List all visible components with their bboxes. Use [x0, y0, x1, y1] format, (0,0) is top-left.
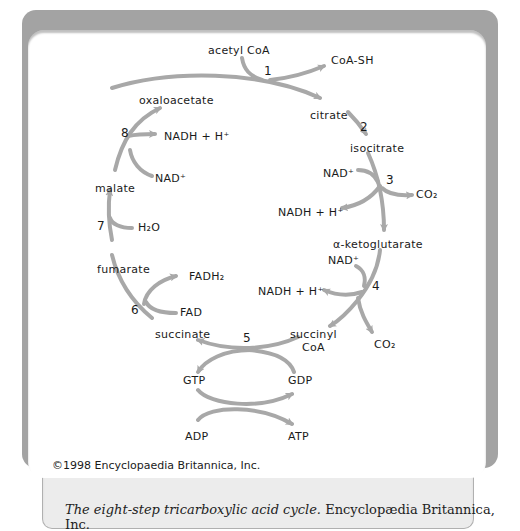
- label-step3-nadh: NADH + H⁺: [278, 206, 343, 219]
- arrow-step4-co2: [358, 298, 372, 332]
- label-citrate: citrate: [310, 109, 348, 122]
- tca-cycle-diagram: acetyl CoA CoA-SH citrate isocitrate α-k…: [0, 0, 520, 531]
- label-succinyl-coa: CoA: [302, 341, 325, 354]
- arrow-step8-nad: [130, 150, 152, 176]
- arrow-step7-main: [109, 190, 112, 240]
- step-number-1: 1: [264, 64, 272, 78]
- label-step8-nadh: NADH + H⁺: [164, 130, 229, 143]
- arrow-step5-adp-atp: [198, 409, 292, 424]
- label-succinate: succinate: [155, 328, 210, 341]
- step-number-6: 6: [131, 303, 139, 317]
- arrow-step6-fadh2: [144, 276, 176, 304]
- arrow-step4-nad: [356, 266, 365, 286]
- copyright-notice: ©1998 Encyclopaedia Britannica, Inc.: [52, 459, 260, 472]
- arrow-step6-fad: [146, 302, 176, 313]
- label-acetyl-coa: acetyl CoA: [208, 44, 270, 57]
- arrow-step1-coash: [270, 66, 324, 80]
- label-isocitrate: isocitrate: [350, 142, 404, 155]
- step-number-5: 5: [243, 331, 251, 345]
- label-step3-nad: NAD⁺: [323, 167, 354, 180]
- arrow-step4-nadh: [324, 290, 362, 295]
- arrow-step3-co2: [382, 188, 412, 195]
- step-number-4: 4: [372, 279, 380, 293]
- label-h2o: H₂O: [138, 221, 160, 234]
- label-fumarate: fumarate: [97, 263, 150, 276]
- arrow-step7-h2o: [110, 218, 132, 228]
- step-number-7: 7: [97, 219, 105, 233]
- label-fadh2: FADH₂: [189, 270, 225, 283]
- label-malate: malate: [95, 182, 135, 195]
- caption-title: The eight-step tricarboxylic acid cycle.: [65, 502, 321, 517]
- arrow-step3-nadh: [342, 186, 380, 208]
- label-coa-sh: CoA-SH: [331, 54, 374, 67]
- label-alpha-ketoglutarate: α-ketoglutarate: [333, 238, 423, 251]
- step-number-8: 8: [121, 126, 129, 140]
- arrow-step8-nadh: [128, 134, 155, 136]
- arrow-step5-gtp-gdp: [198, 390, 292, 404]
- label-adp: ADP: [185, 430, 209, 443]
- figure-caption: The eight-step tricarboxylic acid cycle.…: [65, 502, 520, 531]
- label-fad: FAD: [180, 306, 202, 319]
- step-number-3: 3: [386, 173, 394, 187]
- label-gtp: GTP: [183, 374, 205, 387]
- label-step4-nadh: NADH + H⁺: [258, 285, 323, 298]
- arrow-step5-gdp-in: [248, 350, 294, 372]
- label-atp: ATP: [288, 430, 309, 443]
- label-step3-co2: CO₂: [416, 188, 438, 201]
- label-step4-nad: NAD⁺: [328, 254, 359, 267]
- label-oxaloacetate: oxaloacetate: [139, 94, 214, 107]
- label-step8-nad: NAD⁺: [155, 172, 186, 185]
- label-gdp: GDP: [288, 374, 313, 387]
- label-step4-co2: CO₂: [374, 338, 396, 351]
- step-number-2: 2: [360, 120, 368, 134]
- label-succinyl: succinyl: [290, 328, 337, 341]
- arrow-step5-gtp: [198, 350, 250, 372]
